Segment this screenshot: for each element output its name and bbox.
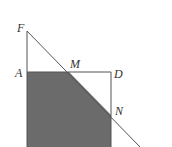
label-d: D xyxy=(113,67,123,81)
label-a: A xyxy=(14,66,23,80)
label-f: F xyxy=(16,21,25,35)
label-n: N xyxy=(114,104,124,118)
label-m: M xyxy=(69,57,81,71)
shaded-region xyxy=(27,72,111,147)
geometry-diagram: F A M D N xyxy=(0,0,172,147)
